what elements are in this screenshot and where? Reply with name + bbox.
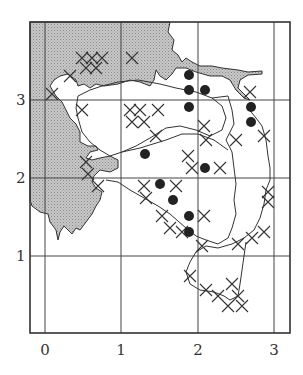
y-tick-2: 2 <box>16 169 26 187</box>
land-area <box>30 22 262 240</box>
y-tick-3: 3 <box>16 91 26 109</box>
x-tick-2: 2 <box>193 341 203 359</box>
x-tick-0: 0 <box>40 341 50 359</box>
y-tick-1: 1 <box>16 247 26 265</box>
grid-map <box>0 0 303 375</box>
x-tick-1: 1 <box>116 341 126 359</box>
x-tick-3: 3 <box>269 341 279 359</box>
contour-lines <box>76 80 270 300</box>
